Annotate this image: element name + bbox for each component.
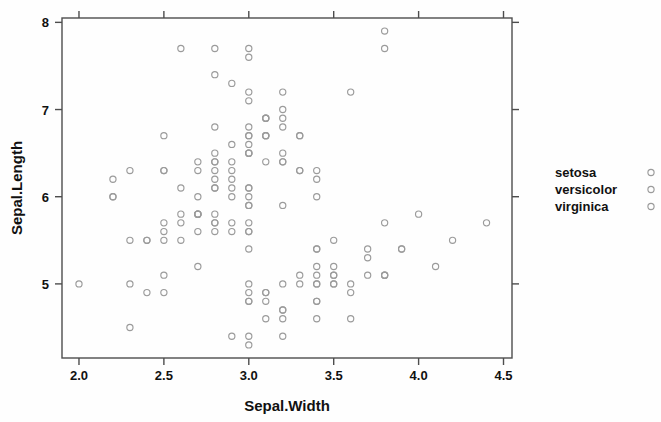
y-tick-label: 7 xyxy=(42,103,49,118)
y-tick-label: 8 xyxy=(42,15,49,30)
legend-label-setosa: setosa xyxy=(555,165,597,180)
legend-label-virginica: virginica xyxy=(555,199,609,214)
y-tick-label: 5 xyxy=(42,277,49,292)
x-tick-label: 4.0 xyxy=(410,368,428,383)
y-tick-label: 6 xyxy=(42,190,49,205)
y-axis-title: Sepal.Length xyxy=(8,141,25,235)
legend-label-versicolor: versicolor xyxy=(555,182,617,197)
x-tick-label: 3.0 xyxy=(240,368,258,383)
x-tick-label: 2.5 xyxy=(155,368,173,383)
x-tick-label: 4.5 xyxy=(494,368,512,383)
x-axis-title: Sepal.Width xyxy=(244,397,330,414)
chart-figure: 2.02.53.03.54.04.5 5678 Sepal.Width Sepa… xyxy=(0,0,661,422)
x-tick-label: 2.0 xyxy=(70,368,88,383)
x-tick-label: 3.5 xyxy=(325,368,343,383)
scatter-plot-svg: 2.02.53.03.54.04.5 5678 Sepal.Width Sepa… xyxy=(0,0,661,422)
